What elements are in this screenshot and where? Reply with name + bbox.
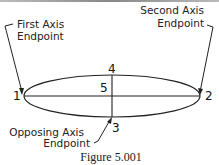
second-axis-label-line1: Second Axis bbox=[140, 4, 204, 16]
second-axis-leader bbox=[200, 25, 213, 92]
ellipse-diagram: First Axis Endpoint Second Axis Endpoint… bbox=[0, 0, 219, 165]
first-axis-label-line2: Endpoint bbox=[17, 30, 64, 42]
point-2-label: 2 bbox=[205, 89, 213, 103]
opposing-axis-leader bbox=[94, 120, 110, 143]
point-3-label: 3 bbox=[112, 121, 120, 135]
figure-caption: Figure 5.001 bbox=[80, 150, 141, 164]
point-5-label: 5 bbox=[100, 81, 108, 95]
point-1-label: 1 bbox=[13, 89, 21, 103]
point-4-label: 4 bbox=[108, 62, 116, 76]
first-axis-label-line1: First Axis bbox=[17, 18, 64, 30]
figure: First Axis Endpoint Second Axis Endpoint… bbox=[0, 0, 219, 165]
second-axis-label-line2: Endpoint bbox=[157, 17, 204, 29]
opposing-axis-label-line2: Endpoint bbox=[43, 137, 90, 149]
